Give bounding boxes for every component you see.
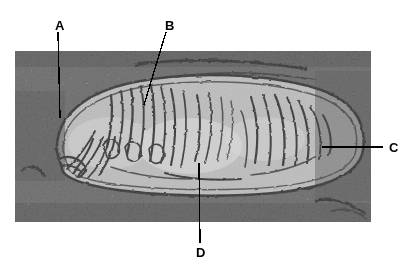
electron-micrograph-image <box>15 51 371 222</box>
label-a: A <box>55 19 64 32</box>
micrograph-canvas <box>15 51 371 222</box>
figure-root: A B C D <box>0 0 414 268</box>
label-b: B <box>165 19 174 32</box>
label-d: D <box>196 246 205 259</box>
label-c: C <box>389 141 398 154</box>
